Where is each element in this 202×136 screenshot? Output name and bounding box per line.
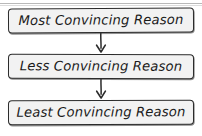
flow-node-label: Least Convincing Reason bbox=[16, 105, 185, 119]
flow-connector-2 bbox=[0, 79, 202, 100]
flow-node-most-convincing[interactable]: Most Convincing Reason bbox=[8, 7, 194, 33]
flow-connector-1 bbox=[0, 33, 202, 54]
top-divider-rule-secondary bbox=[0, 5, 202, 6]
flow-node-less-convincing[interactable]: Less Convincing Reason bbox=[8, 54, 194, 79]
flow-node-label: Most Convincing Reason bbox=[18, 13, 183, 27]
flow-node-least-convincing[interactable]: Least Convincing Reason bbox=[8, 100, 194, 126]
top-divider-rule bbox=[0, 3, 202, 4]
arrow-down-icon bbox=[89, 33, 113, 54]
diagram-canvas: Most Convincing Reason Less Convincing R… bbox=[0, 0, 202, 136]
flowchart: Most Convincing Reason Less Convincing R… bbox=[0, 8, 202, 125]
flow-node-label: Less Convincing Reason bbox=[20, 59, 183, 73]
arrow-down-icon bbox=[89, 79, 113, 100]
